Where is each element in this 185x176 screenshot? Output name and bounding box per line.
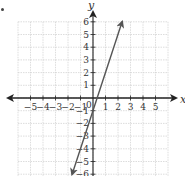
y-tick-label: −3 bbox=[76, 131, 90, 141]
y-tick-label: 4 bbox=[83, 42, 89, 52]
x-tick-label: −2 bbox=[61, 102, 74, 112]
y-tick-label: 3 bbox=[83, 55, 89, 65]
x-tick-label: 4 bbox=[140, 102, 146, 112]
y-tick-label: 6 bbox=[83, 17, 89, 27]
x-axis-label: x bbox=[180, 93, 185, 106]
y-axis-label: y bbox=[87, 0, 95, 12]
x-tick-label: −3 bbox=[49, 102, 63, 112]
x-tick-label: 5 bbox=[153, 102, 159, 112]
y-tick-label: 2 bbox=[83, 68, 89, 78]
x-tick-label: −4 bbox=[36, 102, 50, 112]
x-tick-label: −5 bbox=[24, 102, 38, 112]
y-tick-label: 5 bbox=[83, 30, 89, 40]
coordinate-plane: −5−4−3−2−112345654321−1−2−3−4−5−6 y x 0 bbox=[0, 0, 185, 176]
axes bbox=[8, 12, 176, 176]
x-tick-label: 3 bbox=[128, 102, 134, 112]
x-tick-label: 1 bbox=[103, 102, 109, 112]
origin-label: 0 bbox=[86, 100, 92, 110]
tick-labels: −5−4−3−2−112345654321−1−2−3−4−5−6 bbox=[24, 17, 159, 176]
y-tick-label: −4 bbox=[76, 144, 90, 154]
y-tick-label: −6 bbox=[76, 169, 90, 176]
x-tick-label: 2 bbox=[115, 102, 121, 112]
y-tick-label: 1 bbox=[83, 80, 89, 90]
